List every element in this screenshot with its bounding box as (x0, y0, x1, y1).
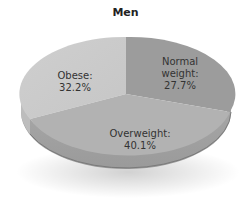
label-obese: Obese: 32.2% (45, 70, 105, 94)
label-normal-line2: weight: (150, 68, 210, 80)
label-obese-value: 32.2% (45, 82, 105, 94)
label-overweight-line1: Overweight: (100, 128, 180, 140)
label-obese-line1: Obese: (45, 70, 105, 82)
label-normal-line1: Normal (150, 56, 210, 68)
label-overweight-value: 40.1% (100, 140, 180, 152)
pie-chart (0, 0, 251, 210)
label-normal-weight: Normal weight: 27.7% (150, 56, 210, 92)
label-normal-value: 27.7% (150, 80, 210, 92)
label-overweight: Overweight: 40.1% (100, 128, 180, 152)
